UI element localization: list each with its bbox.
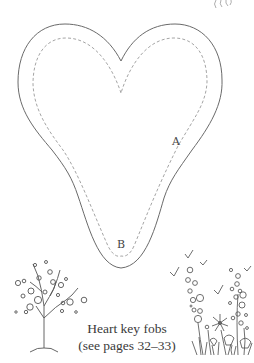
marker-a: A (171, 135, 181, 148)
heart-outline (18, 24, 222, 268)
heart-stitch-line (33, 38, 207, 256)
template-caption: Heart key fobs (see pages 32–33) (60, 320, 194, 354)
corner-doodle (215, 0, 232, 8)
marker-b: B (117, 238, 125, 251)
template-illustration: A B (0, 0, 254, 363)
caption-page-reference: (see pages 32–33) (60, 337, 194, 354)
caption-title: Heart key fobs (60, 320, 194, 337)
